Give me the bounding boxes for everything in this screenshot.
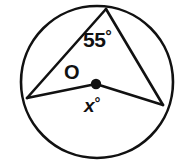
- degree-symbol-icon: °: [95, 95, 101, 111]
- degree-symbol-icon: °: [105, 27, 111, 45]
- geometry-figure: 55° O x°: [0, 0, 183, 165]
- central-angle-value: x: [84, 95, 95, 116]
- inscribed-angle-label: 55°: [83, 28, 111, 50]
- inscribed-angle-value: 55: [83, 28, 105, 51]
- circle-geometry-diagram: [0, 0, 183, 165]
- center-point-label: O: [64, 62, 80, 82]
- central-angle-label: x°: [84, 96, 101, 115]
- center-point-dot: [91, 79, 101, 89]
